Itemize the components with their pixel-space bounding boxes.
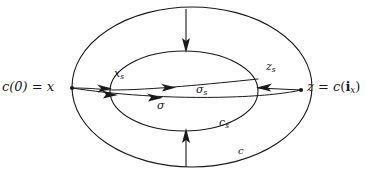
label-xs-sub: s xyxy=(120,72,124,81)
figure-root: c(0) = x z = c(ix) xs zs σs σ cs c xyxy=(0,0,373,174)
label-inner-right-point: zs xyxy=(266,61,276,74)
label-right-equals: = xyxy=(314,79,333,94)
label-sigma-s-sub: s xyxy=(204,88,208,97)
label-zs-sub: s xyxy=(272,65,276,74)
label-c-base: c xyxy=(238,145,244,156)
inner-loop-ellipse-cs xyxy=(110,51,258,131)
label-cs-sub: s xyxy=(225,121,229,130)
label-inner-loop-cs: cs xyxy=(219,117,229,130)
label-sigma-s-base: σ xyxy=(196,83,204,96)
label-upper-shortcut-sigma-s: σs xyxy=(196,84,207,97)
label-right-endpoint: z = c(ix) xyxy=(307,80,360,95)
label-left-endpoint: c(0) = x xyxy=(2,80,54,93)
outer-loop-ellipse-c xyxy=(72,7,312,167)
label-outer-loop-c: c xyxy=(238,146,244,156)
label-right-z: z xyxy=(307,79,314,94)
label-inner-left-point: xs xyxy=(114,68,124,81)
label-lower-shortcut-sigma: σ xyxy=(157,100,165,111)
label-right-paren-close: ) xyxy=(355,79,360,94)
label-left-text: c(0) = x xyxy=(2,79,54,94)
label-sigma-base: σ xyxy=(157,99,165,112)
